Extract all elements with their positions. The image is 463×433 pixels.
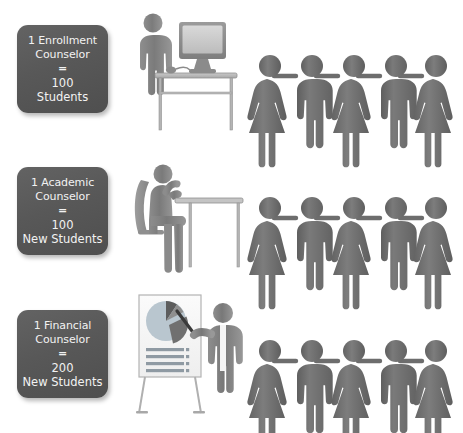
label-amount: 200 xyxy=(52,361,74,375)
infographic-row-academic: 1 Academic Counselor = 100 New Students xyxy=(0,142,463,282)
people-group-financial xyxy=(246,285,461,425)
label-box-enrollment: 1 Enrollment Counselor = 100 Students xyxy=(17,25,108,113)
person-figure-female-3 xyxy=(413,340,452,433)
label-amount: 100 xyxy=(52,76,74,90)
infographic-row-enrollment: 1 Enrollment Counselor = 100 Students xyxy=(0,0,463,140)
people-row xyxy=(247,340,452,433)
seated-person-figure xyxy=(149,165,186,273)
label-equals: = xyxy=(58,203,67,218)
person-figure-male-1 xyxy=(297,197,333,290)
infographic-row-financial: 1 Financial Counselor = 200 New Students xyxy=(0,285,463,425)
computer-monitor xyxy=(179,22,226,73)
label-amount: 100 xyxy=(52,218,74,232)
people-group-enrollment xyxy=(246,0,461,140)
label-role-line-1: 1 Enrollment xyxy=(28,34,97,48)
person-figure-female-1 xyxy=(247,340,286,433)
person-figure-male-2 xyxy=(381,197,417,290)
label-role-line-1: 1 Financial xyxy=(34,319,92,333)
label-box-academic: 1 Academic Counselor = 100 New Students xyxy=(17,167,108,255)
label-role-line-1: 1 Academic xyxy=(31,176,94,190)
person-figure-male-2 xyxy=(381,55,417,148)
person-figure-male-2 xyxy=(381,340,417,433)
computer-mouse xyxy=(166,67,190,74)
person-figure-male-1 xyxy=(297,55,333,148)
illustration-presenter-flipchart xyxy=(133,285,248,425)
illustration-standing-person-computer xyxy=(133,0,248,140)
label-role-line-2: Counselor xyxy=(35,190,89,204)
label-equals: = xyxy=(58,61,67,76)
standing-person-figure xyxy=(140,14,172,96)
desk xyxy=(175,198,243,267)
label-role-line-2: Counselor xyxy=(35,48,89,62)
label-unit: Students xyxy=(37,90,88,104)
person-figure-female-2 xyxy=(331,340,370,433)
person-figure-male-1 xyxy=(297,340,333,433)
infographic-canvas: 1 Enrollment Counselor = 100 Students xyxy=(0,0,463,433)
people-group-academic xyxy=(246,142,461,282)
label-unit: New Students xyxy=(22,375,102,389)
label-box-financial: 1 Financial Counselor = 200 New Students xyxy=(17,310,108,398)
label-equals: = xyxy=(58,346,67,361)
illustration-seated-person-desk xyxy=(133,142,248,282)
label-unit: New Students xyxy=(22,232,102,246)
desk xyxy=(155,73,237,130)
label-role-line-2: Counselor xyxy=(35,333,89,347)
